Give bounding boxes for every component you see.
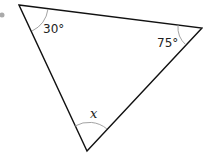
angle-label-x: x: [90, 106, 98, 121]
angle-arc-75: [178, 25, 186, 45]
angle-arc-x: [75, 122, 107, 129]
triangle-diagram: 30° 75° x: [0, 0, 203, 153]
angle-label-30: 30°: [43, 22, 64, 36]
angle-label-75: 75°: [157, 36, 178, 50]
bullet-marker: [0, 13, 5, 18]
